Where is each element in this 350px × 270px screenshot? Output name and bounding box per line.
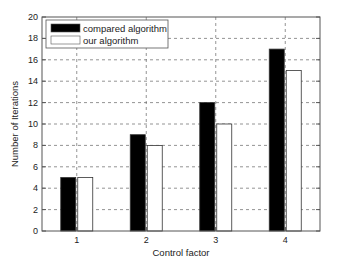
y-tick-label: 0 (33, 226, 38, 236)
y-tick-label: 20 (28, 12, 38, 22)
y-tick-label: 10 (28, 119, 38, 129)
x-tick-label: 1 (74, 235, 79, 245)
legend-swatch (51, 36, 80, 44)
legend-swatch (51, 24, 80, 32)
bar-compared-algorithm-4 (269, 49, 284, 231)
legend-label: compared algorithm (83, 23, 167, 34)
bar-compared-algorithm-3 (200, 103, 215, 231)
x-tick-label: 3 (213, 235, 218, 245)
y-tick-label: 16 (28, 55, 38, 65)
bar-compared-algorithm-1 (61, 178, 76, 232)
legend: compared algorithmour algorithm (46, 20, 168, 48)
bar-compared-algorithm-2 (130, 135, 145, 231)
x-axis-label: Control factor (152, 247, 209, 258)
y-tick-label: 12 (28, 98, 38, 108)
legend-label: our algorithm (83, 35, 139, 46)
bars (61, 49, 302, 231)
x-tick-label: 2 (144, 235, 149, 245)
x-axis: 1234 (74, 227, 288, 245)
bar-our-algorithm-1 (78, 178, 93, 232)
bar-our-algorithm-4 (286, 71, 301, 232)
bar-our-algorithm-3 (217, 124, 232, 231)
y-tick-label: 6 (33, 162, 38, 172)
bar-chart: 02468101214161820 1234 Control factor Nu… (0, 0, 350, 270)
x-tick-label: 4 (283, 235, 288, 245)
y-tick-label: 2 (33, 205, 38, 215)
y-tick-label: 4 (33, 183, 38, 193)
y-tick-label: 18 (28, 33, 38, 43)
y-tick-label: 14 (28, 76, 38, 86)
bar-our-algorithm-2 (147, 145, 162, 231)
y-axis-label: Number of Iterations (9, 81, 20, 167)
y-tick-label: 8 (33, 140, 38, 150)
